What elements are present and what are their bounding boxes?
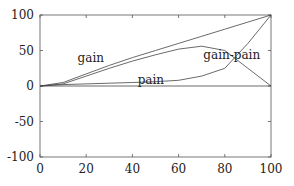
line-chart: 020406080100-100-50050100 gainpaingain-p… — [0, 0, 294, 186]
y-tick-label: 100 — [11, 8, 34, 22]
curve-label: gain — [78, 51, 105, 65]
annotations: gainpaingain-pain — [78, 48, 261, 88]
curve-label: pain — [138, 73, 165, 87]
x-tick-label: 20 — [79, 162, 94, 176]
curve-label: gain-pain — [203, 48, 260, 62]
x-tick-label: 100 — [260, 162, 283, 176]
x-tick-label: 40 — [125, 162, 140, 176]
y-tick-label: 0 — [26, 79, 34, 93]
x-tick-label: 60 — [171, 162, 186, 176]
x-tick-label: 80 — [217, 162, 232, 176]
y-tick-label: -50 — [15, 115, 34, 129]
x-tick-label: 0 — [36, 162, 44, 176]
y-tick-label: 50 — [19, 44, 34, 58]
y-tick-label: -100 — [7, 150, 34, 164]
axis-ticks: 020406080100-100-50050100 — [7, 8, 282, 176]
